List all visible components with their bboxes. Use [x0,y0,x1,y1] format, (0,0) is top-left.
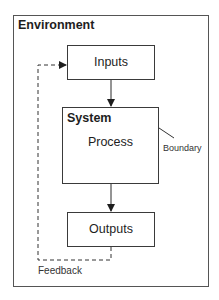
process-label: Process [63,135,158,149]
outputs-label: Outputs [68,222,154,236]
system-node: System Process [62,107,159,184]
boundary-leader-line [159,128,174,138]
inputs-label: Inputs [68,55,154,69]
feedback-label: Feedback [38,265,82,276]
outputs-node: Outputs [67,212,155,247]
system-label: System [67,111,111,125]
boundary-label: Boundary [163,143,202,153]
inputs-node: Inputs [67,45,155,80]
